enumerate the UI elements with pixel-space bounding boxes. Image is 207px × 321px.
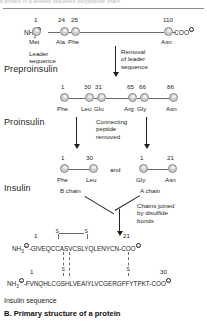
- residue-bead: [139, 164, 148, 173]
- residue-label: Met: [29, 39, 39, 45]
- residue-number: 21: [167, 155, 174, 161]
- stage-label-insulin: Insulin: [4, 184, 31, 193]
- figure-panel: a protein in a defined sequence polypept…: [0, 0, 207, 321]
- b-chain-start-number: 1: [30, 269, 33, 275]
- b-chain-name: B chain: [60, 188, 81, 194]
- a-chain-name: A chain: [140, 188, 160, 194]
- panel-divider-rule: [3, 8, 204, 9]
- residue-bead: [128, 93, 137, 102]
- a-seq-n-subscript: 3: [21, 249, 24, 254]
- residue-number: 110: [163, 17, 173, 23]
- residue-number: 30: [84, 84, 91, 90]
- backbone-segment: [106, 98, 129, 99]
- residue-label: Phe: [57, 106, 68, 112]
- b-chain-end-number: 30: [160, 269, 167, 275]
- b-seq-n-subscript: 3: [16, 284, 19, 289]
- residue-label: Leu: [81, 106, 91, 112]
- residue-number: 66: [139, 84, 146, 90]
- process-arrow-down: [115, 46, 116, 72]
- interchain-bond-label-s-right: S: [126, 266, 130, 272]
- a-seq-n-terminus: NH: [12, 245, 21, 252]
- residue-number: 24: [58, 17, 65, 23]
- residue-bead: [164, 27, 173, 36]
- residue-bead: [60, 93, 69, 102]
- backbone-segment: [147, 169, 169, 170]
- connecting-note-line2: peptide: [96, 125, 116, 132]
- residue-label: Arg: [124, 106, 134, 112]
- figure-subcaption: Insulin sequence: [4, 297, 57, 304]
- a-seq-n-charge-icon: +: [24, 243, 29, 248]
- connecting-peptide-note: Connecting peptide removed: [96, 118, 144, 140]
- backbone-segment: [48, 32, 60, 33]
- residue-label: Ala: [56, 39, 65, 45]
- residue-number: 31: [95, 84, 102, 90]
- residue-number: 86: [167, 84, 174, 90]
- clipped-text-bleed: a protein in a defined sequence polypept…: [0, 0, 207, 7]
- residue-bead: [85, 93, 94, 102]
- c-terminus-charge-icon: –: [189, 27, 194, 32]
- residue-number: 1: [34, 17, 37, 23]
- stage-label-preproinsulin: Preproinsulin: [4, 65, 58, 74]
- residue-bead: [168, 164, 177, 173]
- residue-bead: [60, 27, 69, 36]
- backbone-segment: [68, 98, 86, 99]
- disulfide-bond-note: Chains joined by disulfide bonds: [137, 202, 199, 224]
- interchain-bond-left: [63, 252, 64, 276]
- removal-note-line1: Removal: [121, 48, 145, 55]
- process-arrow-down: [76, 117, 77, 144]
- residue-number: 65: [127, 84, 134, 90]
- interchain-bond-label-s-left: S: [61, 266, 65, 272]
- interchain-bond-left-2: [69, 252, 70, 276]
- interchain-bond-right: [128, 252, 129, 276]
- residue-label: Asn: [165, 177, 176, 183]
- residue-label: Gly: [136, 177, 145, 183]
- preproinsulin-c-terminus: COO–: [174, 28, 194, 37]
- backbone-segment: [149, 98, 170, 99]
- b-chain-residues: -FVNQHLCGSHLVEAIYLVCGERGFFYTPKT-COO: [24, 280, 166, 287]
- removal-note: Removal of leader sequence: [121, 48, 167, 70]
- residue-bead: [60, 164, 69, 173]
- backbone-segment: [68, 169, 90, 170]
- removal-note-line2: of leader: [121, 55, 145, 62]
- residue-number: 1: [61, 155, 64, 161]
- residue-number: 1: [140, 155, 143, 161]
- b-chain-sequence-line: NH3+-FVNQHLCGSHLVEAIYLVCGERGFFYTPKT-COO–: [7, 279, 171, 290]
- leader-line-left: [84, 196, 114, 214]
- intrachain-bond-label-s-left: S: [55, 228, 59, 234]
- residue-label: Asn: [166, 106, 177, 112]
- residue-bead: [169, 93, 178, 102]
- leader-sequence-note: Leader sequence: [29, 50, 77, 65]
- b-seq-n-charge-icon: +: [19, 278, 24, 283]
- residue-bead: [32, 27, 41, 36]
- process-arrow-down: [146, 117, 147, 144]
- intrachain-bond-label-s-right: S: [84, 228, 88, 234]
- residue-number: 25: [71, 17, 78, 23]
- process-arrow-down: [119, 209, 120, 231]
- removal-note-line3: sequence: [121, 63, 148, 70]
- residue-label: Leu: [86, 177, 96, 183]
- bond-note-line3: bonds: [137, 217, 154, 224]
- connecting-note-line1: Connecting: [96, 118, 127, 125]
- residue-number: 30: [86, 155, 93, 161]
- bond-note-line1: Chains joined: [137, 202, 175, 209]
- residue-label: Gly: [137, 106, 146, 112]
- conjunction-and: and: [110, 167, 120, 173]
- residue-label: Phe: [57, 177, 68, 183]
- a-chain-sequence-line: NH3+-GIVEQCCASVCSLYQLENYCN-COO–: [12, 244, 141, 255]
- backbone-segment: [80, 32, 164, 33]
- a-chain-start-number: 1: [34, 233, 37, 239]
- residue-bead: [89, 164, 98, 173]
- residue-label: Phe: [68, 39, 79, 45]
- residue-label: Asn: [161, 39, 172, 45]
- a-seq-c-charge-icon: –: [136, 243, 141, 248]
- stage-label-proinsulin: Proinsulin: [4, 118, 45, 127]
- b-seq-n-terminus: NH: [7, 280, 16, 287]
- c-terminus-text: COO: [174, 29, 189, 36]
- residue-label: Glu: [94, 106, 104, 112]
- b-seq-c-charge-icon: –: [166, 278, 171, 283]
- clipped-text: a protein in a defined sequence polypept…: [0, 0, 120, 4]
- connecting-note-line3: removed: [96, 133, 120, 140]
- bond-note-line2: by disulfide: [137, 209, 168, 216]
- leader-note-line1: Leader: [29, 50, 48, 57]
- residue-bead: [97, 93, 106, 102]
